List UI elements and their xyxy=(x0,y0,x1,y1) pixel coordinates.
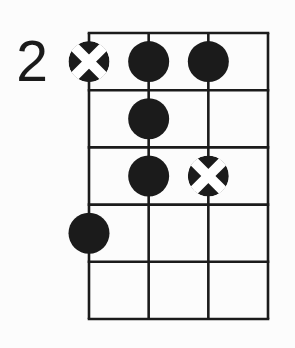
fret-position-label: 2 xyxy=(16,29,48,93)
muted-dot xyxy=(67,39,112,84)
grid-layer xyxy=(88,33,270,319)
finger-dot xyxy=(128,41,169,82)
finger-dot xyxy=(69,213,110,254)
chord-diagram: 2 xyxy=(0,0,295,348)
chord-grid-svg: 2 xyxy=(0,0,295,348)
finger-dot xyxy=(128,156,169,197)
finger-dot xyxy=(188,41,229,82)
muted-dot xyxy=(186,154,231,199)
finger-dot xyxy=(128,98,169,139)
